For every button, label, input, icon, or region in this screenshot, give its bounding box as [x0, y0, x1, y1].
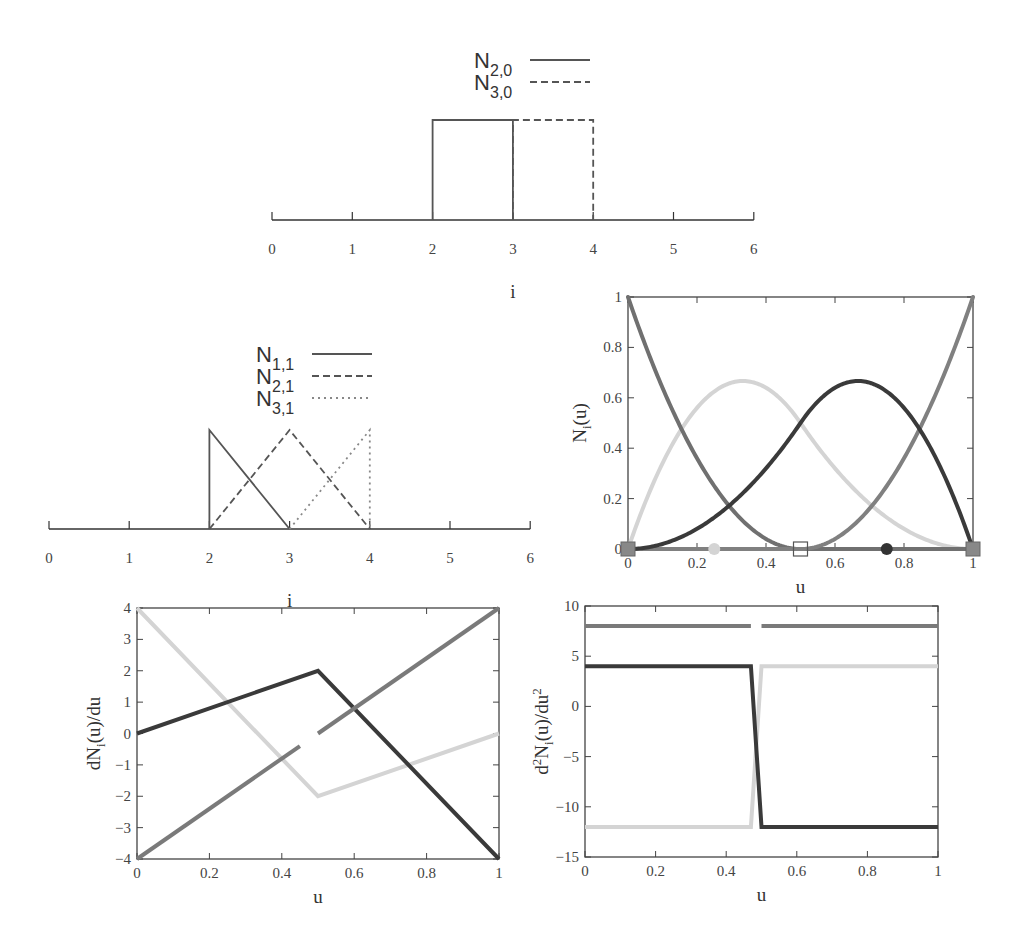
x-tick-label: 0.6 — [787, 863, 806, 879]
x-tick-label: 6 — [750, 241, 758, 257]
y-tick-label: −2 — [115, 788, 131, 804]
y-tick-label: 1 — [124, 694, 132, 710]
knot-marker-square — [621, 542, 635, 556]
derivative-line-dN0 — [137, 608, 499, 796]
x-tick-label: 0.4 — [757, 555, 776, 571]
x-tick-label: 5 — [446, 550, 454, 566]
sample-marker-circle — [881, 543, 893, 555]
x-tick-label: 4 — [589, 241, 597, 257]
y-tick-label: −4 — [115, 851, 131, 867]
y-tick-label: 0.8 — [603, 339, 622, 355]
y-tick-label: 1 — [615, 289, 623, 305]
y-axis-label: dNi(u)/du — [83, 696, 108, 770]
chart-second-derivative: 00.20.40.60.81−15−10−50510ud2Ni(u)/du2 — [529, 598, 942, 905]
y-tick-label: 10 — [564, 598, 579, 614]
x-axis-label: u — [796, 576, 806, 597]
derivative-line-dN1 — [137, 671, 499, 859]
y-tick-label: 0.6 — [603, 390, 622, 406]
legend-label: N — [474, 70, 490, 95]
basis-curve-N1 — [628, 381, 973, 549]
x-tick-label: 1 — [969, 555, 977, 571]
x-tick-label: 0 — [624, 555, 632, 571]
x-tick-label: 0 — [268, 241, 276, 257]
x-tick-label: 3 — [286, 550, 294, 566]
x-tick-label: 6 — [526, 550, 534, 566]
y-tick-label: −5 — [563, 749, 579, 765]
y-tick-label: −15 — [556, 849, 579, 865]
y-tick-label: 0.4 — [603, 440, 622, 456]
x-axis-label: u — [757, 884, 767, 905]
x-tick-label: 3 — [509, 241, 517, 257]
derivative-line-dN2b — [318, 608, 499, 734]
x-tick-label: 0 — [581, 863, 589, 879]
legend-item: N2,0 — [474, 48, 590, 79]
x-tick-label: 0.8 — [417, 865, 436, 881]
chart-basis-degree-0: 0123456iN2,0N3,0 — [268, 48, 758, 302]
x-tick-label: 0.6 — [826, 555, 845, 571]
series-line-N2-0 — [433, 120, 513, 220]
y-tick-label: 4 — [124, 600, 132, 616]
x-tick-label: 0.4 — [717, 863, 736, 879]
legend-item: N1,1 — [256, 342, 372, 373]
chart-quadratic-basis: 00.20.40.60.8100.20.40.60.81uNi(u) — [569, 289, 980, 597]
x-tick-label: 0.2 — [200, 865, 219, 881]
legend-subscript: 2,0 — [490, 62, 512, 79]
y-tick-label: 0 — [124, 726, 132, 742]
chart-basis-degree-1: 0123456iN1,1N2,1N3,1 — [45, 342, 534, 611]
x-tick-label: 4 — [366, 550, 374, 566]
x-axis-label: u — [313, 886, 323, 907]
y-axis-label: d2Ni(u)/du2 — [529, 688, 556, 774]
x-tick-label: 0.6 — [345, 865, 364, 881]
x-tick-label: 0.8 — [895, 555, 914, 571]
x-tick-label: 0.8 — [858, 863, 877, 879]
legend-subscript: 1,1 — [272, 356, 294, 373]
derivative-line-dN2a — [137, 746, 300, 859]
y-tick-label: 2 — [124, 663, 132, 679]
y-tick-label: 3 — [124, 631, 132, 647]
x-tick-label: 0.2 — [688, 555, 707, 571]
figure-canvas: 0123456iN2,0N3,0 0123456iN1,1N2,1N3,1 00… — [0, 0, 1017, 942]
y-tick-label: 0 — [572, 698, 580, 714]
x-tick-label: 2 — [429, 241, 437, 257]
y-tick-label: 0.2 — [603, 491, 622, 507]
legend-subscript: 3,0 — [490, 84, 512, 101]
series-line-N2-1 — [209, 430, 369, 529]
y-tick-label: 5 — [572, 648, 580, 664]
x-tick-label: 1 — [349, 241, 357, 257]
chart-first-derivative: 00.20.40.60.81−4−3−2−101234udNi(u)/du — [83, 600, 503, 907]
knot-marker-square — [966, 542, 980, 556]
sample-marker-circle — [708, 543, 720, 555]
legend-label: N — [256, 386, 272, 411]
series-line-N1-1 — [209, 430, 289, 529]
y-tick-label: −3 — [115, 820, 131, 836]
basis-curve-N2 — [628, 381, 973, 549]
x-axis-label: i — [510, 281, 515, 302]
x-tick-label: 1 — [495, 865, 503, 881]
x-tick-label: 1 — [934, 863, 942, 879]
x-tick-label: 5 — [670, 241, 678, 257]
y-axis-label: Ni(u) — [569, 403, 594, 443]
x-tick-label: 1 — [125, 550, 133, 566]
legend-subscript: 2,1 — [272, 378, 294, 395]
x-tick-label: 0.2 — [646, 863, 665, 879]
legend-subscript: 3,1 — [272, 400, 294, 417]
x-tick-label: 0.4 — [272, 865, 291, 881]
y-tick-label: −10 — [556, 799, 579, 815]
x-tick-label: 0 — [133, 865, 141, 881]
x-tick-label: 2 — [206, 550, 214, 566]
x-tick-label: 0 — [45, 550, 53, 566]
y-tick-label: −1 — [115, 757, 131, 773]
series-line-N3-0 — [513, 120, 593, 220]
